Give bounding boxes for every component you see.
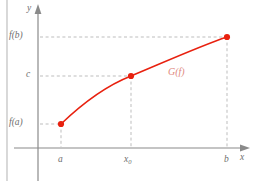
x-tick-label-b: b — [224, 155, 229, 165]
point-a-marker — [58, 121, 64, 127]
y-tick-label-c: c — [26, 70, 30, 80]
point-b-marker — [224, 34, 230, 40]
x-tick-label-x0: x0 — [124, 155, 131, 165]
curve-label-gf: G(f) — [168, 67, 185, 77]
point-x0-marker — [128, 73, 134, 79]
x-tick-label-a: a — [58, 155, 63, 165]
figure-canvas: y x f(b) c f(a) a x0 b G(f) — [0, 0, 256, 181]
x-axis-arrowhead — [240, 145, 250, 152]
y-tick-label-fa: f(a) — [9, 118, 23, 128]
x-axis-label: x — [240, 153, 244, 163]
x-tick-label-x0-subscript: 0 — [128, 158, 131, 165]
y-tick-label-fb: f(b) — [9, 31, 23, 41]
function-curve — [61, 37, 227, 124]
y-axis-label: y — [27, 4, 31, 14]
y-axis-arrowhead — [35, 4, 42, 14]
